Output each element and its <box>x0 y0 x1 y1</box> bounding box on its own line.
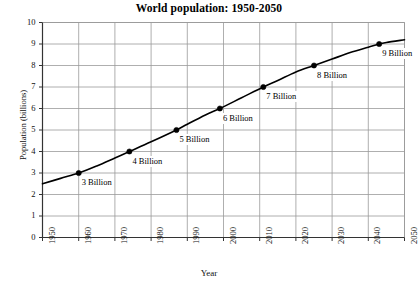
x-tick-label: 1990 <box>191 227 201 244</box>
x-axis-title: Year <box>0 268 418 278</box>
data-point-marker <box>174 127 179 132</box>
y-tick-label: 10 <box>10 17 36 27</box>
y-tick-label: 4 <box>10 146 36 156</box>
x-tick-label: 2040 <box>372 227 382 244</box>
x-tick-label: 2050 <box>409 227 418 244</box>
y-tick-label: 7 <box>10 81 36 91</box>
y-tick-label: 8 <box>10 60 36 70</box>
data-point-marker <box>127 149 132 154</box>
x-tick-label: 2020 <box>300 227 310 244</box>
x-tick-label: 2000 <box>228 227 238 244</box>
point-annotation-label: 5 Billion <box>178 134 210 145</box>
x-tick-label: 1950 <box>47 227 57 244</box>
population-chart: World population: 1950-2050 Population (… <box>0 0 418 289</box>
y-tick-label: 2 <box>10 189 36 199</box>
data-point-marker <box>261 84 266 89</box>
y-tick-label: 1 <box>10 210 36 220</box>
data-point-marker <box>377 41 382 46</box>
data-point-marker <box>217 106 222 111</box>
x-tick-label: 1980 <box>155 227 165 244</box>
x-tick-label: 2010 <box>264 227 274 244</box>
point-annotation-label: 7 Billion <box>265 91 297 102</box>
y-tick-label: 9 <box>10 38 36 48</box>
data-point-marker <box>76 170 81 175</box>
y-tick-label: 0 <box>10 232 36 242</box>
x-tick-label: 1970 <box>119 227 129 244</box>
axis-ticks <box>39 23 405 242</box>
point-annotation-label: 8 Billion <box>316 70 348 81</box>
x-tick-label: 2030 <box>336 227 346 244</box>
point-annotation-label: 6 Billion <box>222 113 254 124</box>
y-tick-label: 6 <box>10 103 36 113</box>
point-annotation-label: 9 Billion <box>381 48 413 59</box>
data-point-marker <box>311 63 316 68</box>
point-annotation-label: 3 Billion <box>81 177 113 188</box>
point-annotation-label: 4 Billion <box>131 156 163 167</box>
y-tick-label: 3 <box>10 167 36 177</box>
y-tick-label: 5 <box>10 124 36 134</box>
gridlines <box>43 23 405 238</box>
x-tick-label: 1960 <box>83 227 93 244</box>
